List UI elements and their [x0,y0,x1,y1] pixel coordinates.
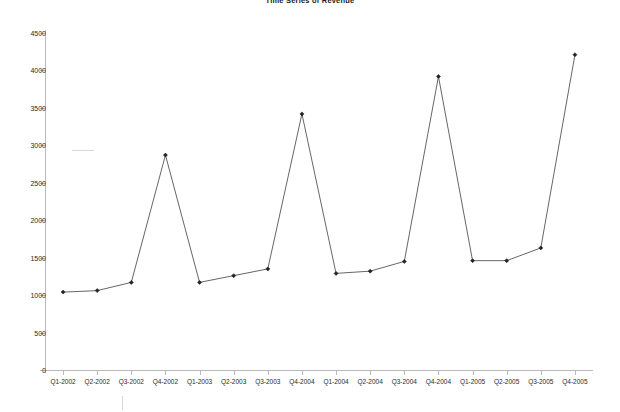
chart-container: Time Series of Revenue 05001000150020002… [0,0,620,412]
data-point-Q2-2002 [95,289,99,293]
data-point-Q2-2003 [232,274,236,278]
data-point-Q3-2005 [539,246,543,250]
data-point-Q3-2002 [129,280,133,284]
data-point-Q3-2003 [266,267,270,271]
data-point-Q1-2003 [198,280,202,284]
series-plot [0,0,620,412]
data-point-Q1-2004 [334,271,338,275]
revenue-line [63,55,575,292]
data-point-Q4-2002 [163,153,167,157]
data-point-Q4-2004 [300,112,304,116]
data-point-Q4-2005 [573,53,577,57]
data-point-Q1-2005 [471,259,475,263]
data-point-Q1-2002 [61,290,65,294]
data-point-Q3-2004 [402,259,406,263]
revenue-markers [61,53,577,294]
data-point-Q2-2005 [505,259,509,263]
data-point-Q4-2004 [436,74,440,78]
data-point-Q2-2004 [368,269,372,273]
